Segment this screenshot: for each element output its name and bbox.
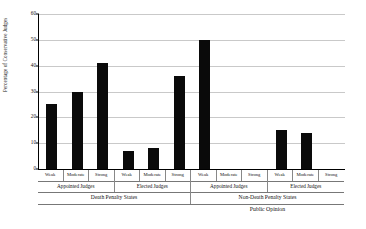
gridline-50 xyxy=(39,40,345,41)
y-tick-mark-50 xyxy=(36,39,39,40)
x-category-label: Weak xyxy=(115,170,141,181)
gridline-10 xyxy=(39,143,345,144)
x-category-label: Moderate xyxy=(140,170,166,181)
bar xyxy=(97,63,108,169)
x-category-label: Strong xyxy=(89,170,115,181)
y-tick-mark-10 xyxy=(36,143,39,144)
x-category-label: Moderate xyxy=(217,170,243,181)
x-axis-title: Public Opinion xyxy=(191,204,344,216)
x-category-label: Weak xyxy=(268,170,294,181)
x-group-label-states: Non-Death Penalty States xyxy=(191,192,344,204)
x-group-label-judges: Elected Judges xyxy=(115,181,192,192)
x-category-label: Strong xyxy=(166,170,192,181)
gridline-30 xyxy=(39,92,345,93)
y-tick-mark-60 xyxy=(36,14,39,15)
plot-top-border xyxy=(39,14,345,15)
x-group-label-states: Death Penalty States xyxy=(38,192,191,204)
x-category-label: Moderate xyxy=(64,170,90,181)
y-tick-mark-20 xyxy=(36,117,39,118)
bar-chart: Percentage of Conservative Judges 010203… xyxy=(0,0,366,229)
x-category-label: Moderate xyxy=(293,170,319,181)
bar xyxy=(148,148,159,169)
bar xyxy=(123,151,134,169)
x-category-label: Weak xyxy=(191,170,217,181)
x-category-label: Strong xyxy=(319,170,345,181)
bar xyxy=(301,133,312,169)
bar xyxy=(276,130,287,169)
plot-area: 0102030405060 xyxy=(38,14,345,170)
x-category-label: Strong xyxy=(242,170,268,181)
gridline-40 xyxy=(39,66,345,67)
y-axis-title: Percentage of Conservative Judges xyxy=(2,18,8,92)
x-group-label-judges: Appointed Judges xyxy=(38,181,115,192)
x-group-label-judges: Appointed Judges xyxy=(191,181,268,192)
bar xyxy=(72,92,83,170)
x-group-label-judges: Elected Judges xyxy=(268,181,345,192)
x-category-label: Weak xyxy=(38,170,64,181)
y-tick-mark-30 xyxy=(36,91,39,92)
bar xyxy=(174,76,185,169)
y-tick-mark-40 xyxy=(36,65,39,66)
gridline-20 xyxy=(39,117,345,118)
x-axis-title xyxy=(38,204,191,216)
bar xyxy=(199,40,210,169)
bar xyxy=(46,104,57,169)
x-axis-title-row: Public Opinion xyxy=(38,204,344,216)
